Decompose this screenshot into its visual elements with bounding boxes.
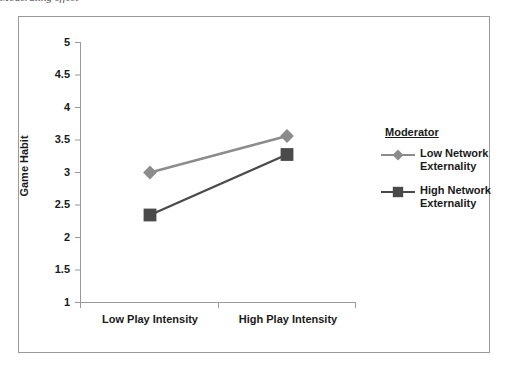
series-high-network-externality xyxy=(144,148,294,221)
legend-label-line2: Externality xyxy=(420,197,476,209)
y-tick-label: 5 xyxy=(36,36,70,48)
y-tick-label: 1 xyxy=(36,296,70,308)
y-tick-label: 3.5 xyxy=(36,133,70,145)
legend-entry-high-network-externality: High Network Externality xyxy=(381,184,499,210)
legend-swatch-diamond-icon xyxy=(381,148,415,162)
data-point-marker xyxy=(280,129,294,143)
legend-swatch-square-icon xyxy=(381,185,415,199)
series-line-high-network-externality xyxy=(150,155,287,216)
y-tick-label: 4 xyxy=(36,101,70,113)
legend-label-line1: High Network xyxy=(420,184,491,196)
legend-label: Low Network Externality xyxy=(420,147,498,173)
y-tick-label: 1.5 xyxy=(36,263,70,275)
y-axis-ticks xyxy=(75,43,80,303)
y-tick-label: 4.5 xyxy=(36,68,70,80)
legend-title: Moderator xyxy=(385,126,499,138)
chart-legend: Moderator Low Network Externality High N… xyxy=(381,126,499,221)
legend-label: High Network Externality xyxy=(420,184,498,210)
legend-label-line1: Low Network xyxy=(420,147,488,159)
x-tick-label-high-play-intensity: High Play Intensity xyxy=(226,313,350,325)
series-line-low-network-externality xyxy=(150,136,287,173)
series-low-network-externality xyxy=(143,129,294,179)
y-axis-title: Game Habit xyxy=(18,121,30,211)
data-point-marker xyxy=(144,209,157,222)
y-tick-label: 2.5 xyxy=(36,198,70,210)
legend-entry-low-network-externality: Low Network Externality xyxy=(381,147,499,173)
data-point-marker xyxy=(281,148,294,161)
y-tick-label: 3 xyxy=(36,166,70,178)
y-tick-label: 2 xyxy=(36,231,70,243)
data-point-marker xyxy=(143,166,157,180)
x-tick-label-low-play-intensity: Low Play Intensity xyxy=(88,313,212,325)
legend-label-line2: Externality xyxy=(420,160,476,172)
